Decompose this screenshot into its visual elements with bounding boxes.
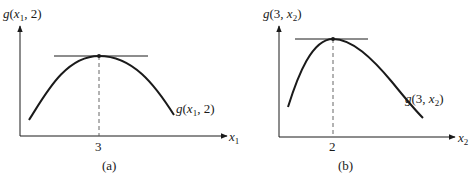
panel-b-caption: (b) [338,159,353,172]
panel-b-curve [288,39,423,118]
panel-a [20,26,227,136]
panel-a-tick-label: 3 [95,140,102,153]
panel-a-caption: (a) [102,159,116,172]
panel-a-curve-label: g(x1, 2) [176,102,214,118]
diagram-canvas [0,0,473,185]
panel-b-tick-label: 2 [329,140,336,153]
panel-b [279,26,455,137]
panel-b-y-axis-label: g(3, x2) [263,7,301,23]
panel-a-curve [29,56,174,120]
panel-a-peak-point [97,54,101,58]
panel-a-y-axis-label: g(x1, 2) [3,7,41,23]
panel-a-x-axis-label: x1 [229,130,239,146]
panel-b-peak-point [331,37,335,41]
panel-b-curve-label: g(3, x2) [405,92,443,108]
panel-b-x-axis-label: x2 [458,131,468,147]
